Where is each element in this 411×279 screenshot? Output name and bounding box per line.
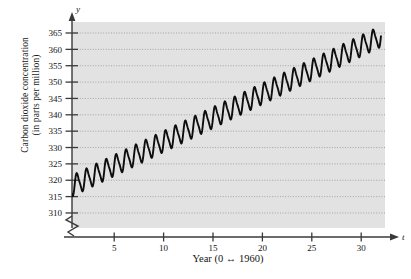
x-tick-label: 30: [357, 243, 367, 253]
plot-background: [72, 22, 385, 228]
y-axis-variable-label: y: [75, 4, 80, 14]
x-axis-ticks: 51015202530: [112, 233, 366, 254]
x-tick-label: 15: [209, 243, 219, 253]
y-tick-label: 325: [49, 159, 63, 169]
co2-chart-figure: Carbon dioxide concentration (in parts p…: [0, 0, 411, 279]
y-tick-label: 335: [49, 126, 63, 136]
x-tick-label: 5: [112, 243, 117, 253]
y-tick-label: 320: [49, 175, 63, 185]
y-tick-label: 310: [49, 208, 63, 218]
chart-plot: y 310315320325330335340345350355360365 t…: [0, 0, 411, 279]
y-tick-label: 360: [49, 45, 63, 55]
x-axis-variable-label: t: [402, 232, 405, 242]
y-tick-label: 330: [49, 143, 63, 153]
x-tick-label: 20: [258, 243, 268, 253]
y-tick-label: 365: [49, 28, 63, 38]
y-tick-label: 345: [49, 94, 63, 104]
x-tick-label: 25: [307, 243, 317, 253]
y-tick-label: 315: [49, 192, 63, 202]
y-tick-label: 355: [49, 61, 63, 71]
x-tick-label: 10: [159, 243, 169, 253]
x-axis-title: Year (0 ↔ 1960): [193, 253, 264, 265]
y-tick-label: 340: [49, 110, 63, 120]
y-tick-label: 350: [49, 77, 63, 87]
